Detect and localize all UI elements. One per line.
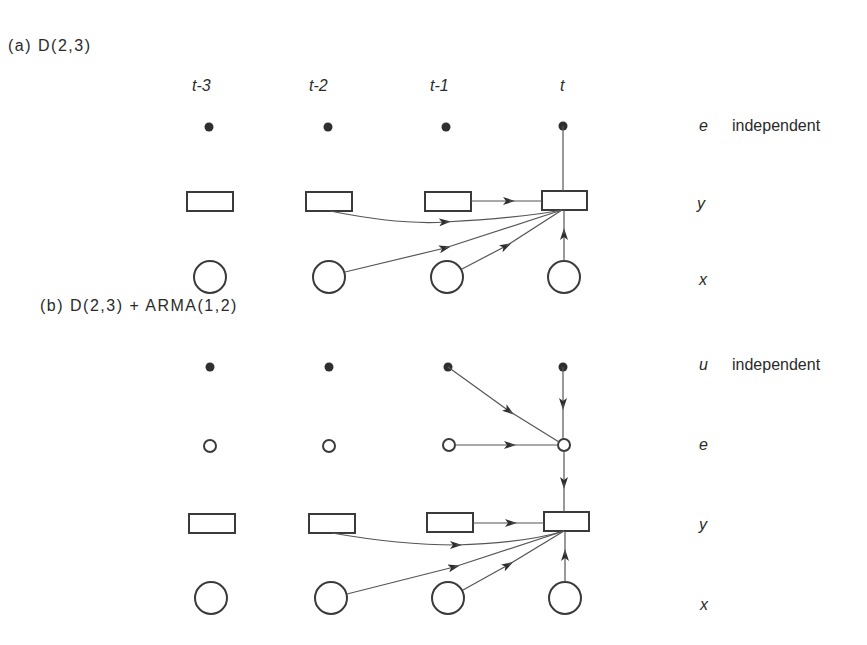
b-edge-x-t-2-to-y-t-tail — [454, 531, 564, 567]
panel-a-title: (a) D(2,3) — [8, 37, 91, 54]
b-row-label-y: y — [698, 516, 708, 533]
a-edge-x-t-2-to-y-t-tail — [445, 210, 562, 248]
a-e-node-t-2 — [324, 123, 333, 132]
a-y-node-t-2 — [306, 192, 352, 211]
a-x-node-t — [548, 261, 580, 293]
a-edge-x-t-1-to-y-t — [462, 246, 506, 269]
diagram-canvas: (a) D(2,3) t-3 t-2 t-1 t e in — [0, 0, 867, 645]
a-y-node-t-3 — [187, 192, 233, 211]
b-y-node-t-2 — [309, 514, 355, 533]
time-label-t-2: t-2 — [309, 77, 328, 94]
b-e-node-t — [558, 439, 570, 451]
b-row-label-u: u — [699, 356, 708, 373]
panel-a: (a) D(2,3) t-3 t-2 t-1 t e in — [8, 37, 821, 293]
a-x-node-t-1 — [431, 261, 463, 293]
b-edge-u-t-1-to-e-t-tail — [509, 411, 559, 442]
a-edge-y-t-2-to-y-t — [330, 211, 445, 223]
panel-b-title: (b) D(2,3) + ARMA(1,2) — [40, 297, 238, 314]
a-row-label-e: e — [699, 117, 708, 134]
a-row-label-x: x — [698, 271, 708, 288]
a-y-node-t-1 — [425, 192, 471, 211]
b-edge-x-t-1-to-y-t-tail — [508, 531, 564, 565]
b-e-node-t-3 — [204, 440, 216, 452]
a-x-node-t-3 — [194, 261, 226, 293]
b-x-node-t-1 — [432, 582, 464, 614]
b-edge-u-t-1-to-e-t — [448, 367, 509, 411]
a-row-desc-e: independent — [732, 117, 821, 134]
time-label-t-3: t-3 — [192, 77, 211, 94]
time-label-t: t — [560, 77, 565, 94]
b-row-label-x: x — [699, 596, 709, 613]
b-y-node-t — [544, 512, 589, 531]
b-edge-x-t-1-to-y-t — [463, 565, 508, 590]
b-x-node-t — [549, 582, 581, 614]
a-e-node-t-1 — [442, 123, 451, 132]
b-u-node-t-2 — [325, 363, 334, 372]
a-x-node-t-2 — [313, 261, 345, 293]
a-e-node-t-3 — [205, 123, 214, 132]
b-e-node-t-2 — [323, 440, 335, 452]
b-y-node-t-1 — [427, 513, 473, 532]
time-label-t-1: t-1 — [430, 77, 449, 94]
b-x-node-t-3 — [195, 582, 227, 614]
b-u-node-t-3 — [206, 363, 215, 372]
a-y-node-t — [542, 191, 587, 210]
b-row-label-e: e — [699, 436, 708, 453]
b-x-node-t-2 — [315, 582, 347, 614]
b-edge-y-t-2-to-y-t-tail — [456, 531, 564, 545]
b-e-node-t-1 — [443, 439, 455, 451]
a-row-label-y: y — [696, 195, 706, 212]
b-edge-y-t-2-to-y-t — [332, 533, 456, 545]
a-edge-x-t-1-to-y-t-tail — [506, 210, 562, 246]
b-y-node-t-3 — [189, 514, 235, 533]
b-row-desc-u: independent — [732, 356, 821, 373]
a-edge-x-t-2-to-y-t — [345, 248, 445, 272]
panel-b: (b) D(2,3) + ARMA(1,2) — [40, 297, 821, 614]
